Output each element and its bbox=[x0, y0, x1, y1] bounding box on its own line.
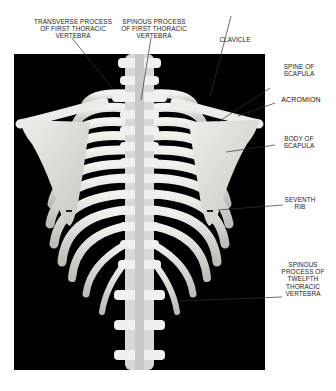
label-spine-of-scapula: SPINE OF SCAPULA bbox=[276, 63, 322, 77]
label-body-of-scapula: BODY OF SCAPULA bbox=[276, 135, 322, 149]
label-spinous-process-twelfth: SPINOUS PROCESS OF TWELFTH THORACIC VERT… bbox=[280, 261, 326, 297]
skeleton-photo bbox=[14, 54, 265, 370]
label-transverse-process: TRANSVERSE PROCESS OF FIRST THORACIC VER… bbox=[28, 18, 118, 40]
label-spinous-process-first: SPINOUS PROCESS OF FIRST THORACIC VERTEB… bbox=[118, 18, 190, 40]
vertebral-column bbox=[112, 54, 167, 370]
skeleton-illustration bbox=[14, 54, 265, 370]
label-acromion: ACROMION bbox=[276, 96, 326, 103]
label-clavicle: CLAVICLE bbox=[212, 36, 258, 43]
label-seventh-rib: SEVENTH RIB bbox=[280, 196, 320, 210]
